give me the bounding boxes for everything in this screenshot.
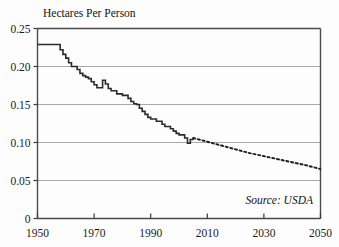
y-axis-label-0.20: 0.20: [10, 61, 30, 73]
chart-background: [0, 0, 339, 247]
chart-container: 00.050.100.150.200.25 195019701990201020…: [0, 0, 339, 247]
x-axis-label-1950: 1950: [26, 227, 49, 239]
x-axis-label-2050: 2050: [309, 227, 332, 239]
y-axis-label-0.25: 0.25: [10, 23, 30, 35]
y-axis-label-0.05: 0.05: [10, 175, 30, 187]
x-axis-label-1990: 1990: [139, 227, 162, 239]
x-axis-label-2030: 2030: [252, 227, 275, 239]
hectares-per-person-line-chart: 00.050.100.150.200.25 195019701990201020…: [0, 0, 339, 247]
x-axis-label-2010: 2010: [196, 227, 219, 239]
x-axis-label-1970: 1970: [83, 227, 106, 239]
chart-title: Hectares Per Person: [43, 7, 136, 19]
source-annotation: Source: USDA: [245, 194, 314, 206]
y-axis-label-0.15: 0.15: [10, 99, 30, 111]
y-axis-label-0: 0: [25, 213, 31, 225]
y-axis-label-0.10: 0.10: [10, 137, 30, 149]
